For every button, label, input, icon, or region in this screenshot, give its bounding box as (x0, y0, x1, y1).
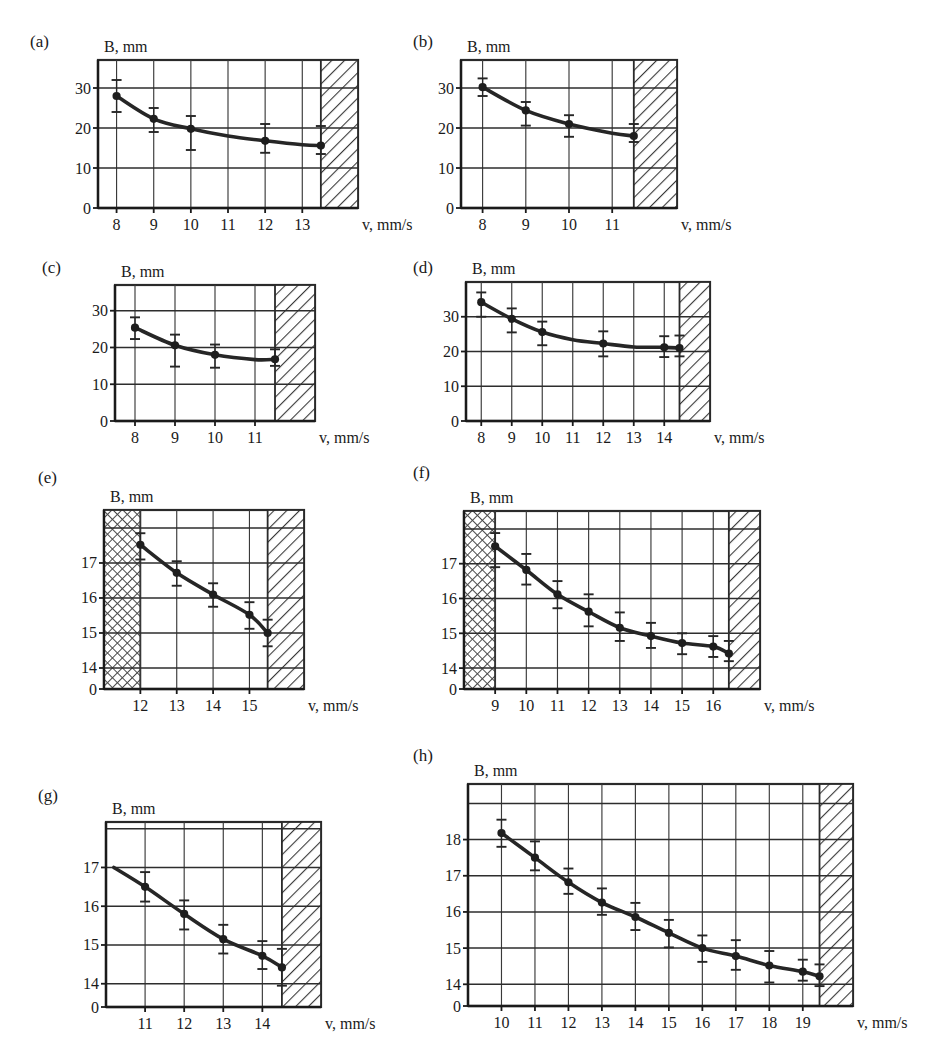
y-tick-label: 17 (445, 867, 461, 884)
x-tick-label: 10 (561, 216, 577, 233)
x-tick-label: 11 (527, 1014, 542, 1031)
data-point (709, 642, 717, 650)
x-tick-label: 14 (205, 697, 221, 714)
data-point (732, 952, 740, 960)
y-tick-label: 20 (75, 120, 91, 137)
x-tick-label: 11 (550, 697, 565, 714)
x-tick-label: 15 (241, 697, 257, 714)
y-axis-title: B, mm (474, 762, 518, 779)
panel-label-a: (a) (30, 32, 49, 52)
x-tick-label: 9 (522, 216, 530, 233)
x-tick-label: 12 (257, 216, 273, 233)
data-point (765, 961, 773, 969)
data-point (531, 854, 539, 862)
x-tick-label: 11 (137, 1015, 152, 1032)
y-tick-label: 15 (441, 625, 457, 642)
y-tick-label: 10 (75, 160, 91, 177)
data-point (278, 963, 286, 971)
y-axis-title: B, mm (104, 38, 148, 55)
x-axis-title: v, mm/s (714, 429, 765, 446)
x-tick-label: 13 (626, 429, 642, 446)
data-point (479, 83, 487, 91)
x-tick-label: 13 (169, 697, 185, 714)
y-tick-label: 30 (92, 302, 108, 319)
x-axis-title: v, mm/s (857, 1014, 908, 1031)
data-point (187, 125, 195, 133)
y-tick-label: 16 (445, 903, 461, 920)
x-tick-label: 13 (612, 697, 628, 714)
x-tick-label: 10 (493, 1014, 509, 1031)
data-point (815, 972, 823, 980)
data-point (209, 590, 217, 598)
x-tick-label: 16 (694, 1014, 710, 1031)
x-tick-label: 9 (508, 429, 516, 446)
data-point (497, 829, 505, 837)
y-tick-label: 14 (441, 660, 457, 677)
x-tick-label: 13 (594, 1014, 610, 1031)
x-tick-label: 10 (183, 216, 199, 233)
y-tick-label: 15 (445, 940, 461, 957)
x-axis-title: v, mm/s (325, 1015, 376, 1032)
panel-label-g: (g) (38, 786, 58, 806)
x-tick-label: 8 (113, 216, 121, 233)
data-point (598, 898, 606, 906)
chart-panel-d: 0102030891011121314B, mmv, mm/s (420, 256, 768, 461)
x-tick-label: 14 (656, 429, 672, 446)
y-axis-title: B, mm (110, 488, 154, 505)
data-point (258, 952, 266, 960)
x-tick-label: 11 (565, 429, 580, 446)
panel-label-b: (b) (413, 32, 433, 52)
y-tick-label: 16 (441, 590, 457, 607)
data-point (675, 344, 683, 352)
chart-panel-a: 01020308910111213B, mmv, mm/s (52, 34, 416, 248)
y-tick-label: 16 (81, 589, 97, 606)
hatched-region-right (634, 60, 677, 208)
y-tick-label: 0 (451, 413, 459, 430)
y-tick-label: 10 (92, 376, 108, 393)
hatched-region-right (275, 285, 315, 421)
y-tick-label: 20 (438, 120, 454, 137)
x-tick-label: 14 (254, 1015, 270, 1032)
y-tick-label: 14 (445, 976, 461, 993)
chart-panel-g: 01415161711121314B, mmv, mm/s (60, 796, 379, 1047)
x-tick-label: 11 (220, 216, 235, 233)
data-point (261, 137, 269, 145)
y-axis-title: B, mm (470, 489, 514, 506)
y-tick-label: 30 (75, 80, 91, 97)
data-point (522, 566, 530, 574)
panel-label-f: (f) (413, 463, 430, 483)
y-tick-label: 20 (92, 339, 108, 356)
panel-label-e: (e) (38, 468, 57, 488)
hatched-region-right (820, 784, 853, 1006)
chart-panel-f: 014151617910111213141516B, mmv, mm/s (418, 485, 818, 729)
x-tick-label: 10 (207, 429, 223, 446)
data-point (564, 878, 572, 886)
chart-panel-c: 0102030891011B, mmv, mm/s (69, 259, 373, 461)
panel-label-h: (h) (413, 746, 433, 766)
x-tick-label: 14 (627, 1014, 643, 1031)
x-tick-label: 9 (150, 216, 158, 233)
hatched-region-right (729, 511, 760, 689)
data-point (538, 328, 546, 336)
x-tick-label: 12 (560, 1014, 576, 1031)
y-tick-label: 14 (83, 975, 99, 992)
y-tick-label: 0 (83, 200, 91, 217)
y-tick-label: 0 (446, 200, 454, 217)
x-tick-label: 12 (595, 429, 611, 446)
x-axis-title: v, mm/s (681, 216, 732, 233)
data-point (173, 569, 181, 577)
y-tick-label: 0 (453, 998, 461, 1015)
data-point (725, 649, 733, 657)
y-tick-label: 15 (81, 624, 97, 641)
y-tick-label: 17 (441, 555, 457, 572)
x-tick-label: 15 (674, 697, 690, 714)
x-tick-label: 12 (176, 1015, 192, 1032)
hatched-region-left (104, 510, 140, 689)
x-tick-label: 8 (131, 429, 139, 446)
data-point (271, 355, 279, 363)
data-point (799, 968, 807, 976)
data-point (171, 341, 179, 349)
hatched-region-right (282, 822, 321, 1007)
data-point (647, 632, 655, 640)
y-tick-label: 0 (449, 681, 457, 698)
